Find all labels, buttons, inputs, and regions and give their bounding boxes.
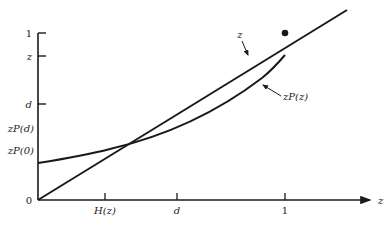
x-axis: H(z) d 1 z — [38, 193, 384, 216]
y-label-zP0: zP(0) — [7, 145, 34, 156]
x-label-d: d — [174, 205, 180, 216]
marked-point — [282, 30, 289, 37]
diagram-canvas: 1 z d zP(d) zP(0) 0 H(z) d 1 z z zP(z) — [0, 0, 387, 226]
y-axis: 1 z d zP(d) zP(0) 0 — [7, 28, 46, 206]
x-label-1: 1 — [282, 205, 288, 216]
line-z-pointer — [242, 41, 248, 55]
x-label-Hz: H(z) — [93, 205, 116, 216]
y-label-1: 1 — [26, 28, 32, 39]
y-label-zPd: zP(d) — [7, 123, 34, 134]
curve-zPz-label: zP(z) — [282, 91, 308, 102]
line-z — [38, 10, 347, 200]
x-axis-label: z — [377, 195, 384, 206]
y-label-d: d — [26, 99, 32, 110]
y-label-z: z — [26, 51, 33, 62]
line-z-label: z — [236, 29, 243, 40]
origin-label: 0 — [26, 195, 32, 206]
curve-zPz-pointer — [263, 85, 281, 96]
